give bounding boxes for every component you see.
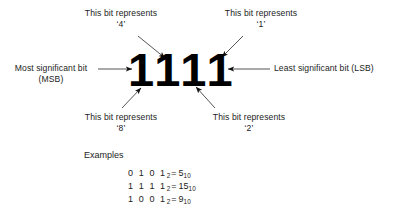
bit-lsb: 1	[206, 48, 232, 92]
example-row: 1 0 0 12=910	[128, 193, 196, 206]
binary-bit-significance-diagram: 1 1 1 1 This bit represents ‘4’ This bit…	[0, 0, 407, 222]
example-decimal: 5	[179, 168, 184, 178]
example-binary-base: 2	[167, 172, 171, 179]
example-binary-base: 2	[167, 198, 171, 205]
callout-bit-4: This bit represents ‘4’	[62, 8, 180, 29]
callout-msb-line2: (MSB)	[4, 74, 98, 85]
callout-bit-8-line2: ‘8’	[62, 123, 180, 134]
bit-1: 1	[180, 48, 206, 92]
examples-heading: Examples	[84, 150, 124, 160]
callout-bit-4-line2: ‘4’	[62, 19, 180, 30]
example-binary: 1 0 0 1	[128, 194, 167, 204]
example-row: 1 1 1 12=1510	[128, 180, 196, 193]
example-decimal-base: 10	[184, 198, 191, 205]
callout-bit-2: This bit represents ‘2’	[190, 112, 308, 133]
callout-lsb: Least significant bit (LSB)	[274, 63, 374, 74]
binary-word: 1 1 1 1	[128, 48, 232, 92]
callout-bit-2-line1: This bit represents	[213, 112, 285, 122]
callout-lsb-line1: Least significant bit (LSB)	[274, 63, 374, 73]
example-binary: 1 1 1 1	[128, 181, 167, 191]
callout-bit-4-line1: This bit represents	[85, 8, 157, 18]
callout-bit-2-line2: ‘2’	[190, 123, 308, 134]
example-equals: =	[171, 194, 176, 204]
bit-msb: 1	[128, 48, 154, 92]
callout-bit-1-line1: This bit represents	[225, 8, 297, 18]
bit-2: 1	[154, 48, 180, 92]
callout-bit-1-line2: ‘1’	[202, 19, 320, 30]
leader-lines-layer	[0, 0, 407, 222]
example-decimal: 9	[179, 194, 184, 204]
callout-bit-8: This bit represents ‘8’	[62, 112, 180, 133]
example-equals: =	[171, 168, 176, 178]
example-decimal: 15	[179, 181, 189, 191]
examples-list: 0 1 0 12=510 1 1 1 12=1510 1 0 0 12=910	[128, 167, 196, 207]
example-binary-base: 2	[167, 185, 171, 192]
example-binary: 0 1 0 1	[128, 168, 167, 178]
callout-msb-line1: Most significant bit	[15, 63, 87, 73]
example-equals: =	[171, 181, 176, 191]
example-decimal-base: 10	[184, 172, 191, 179]
example-row: 0 1 0 12=510	[128, 167, 196, 180]
callout-bit-8-line1: This bit represents	[85, 112, 157, 122]
callout-bit-1: This bit represents ‘1’	[202, 8, 320, 29]
example-decimal-base: 10	[189, 185, 196, 192]
callout-msb: Most significant bit (MSB)	[4, 63, 98, 84]
